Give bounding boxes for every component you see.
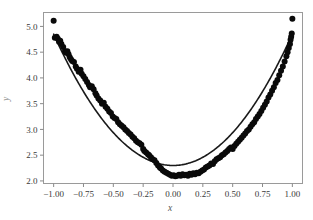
x-tick-label: −0.25 bbox=[133, 189, 154, 199]
scatter-point bbox=[289, 16, 295, 22]
x-axis-title: x bbox=[167, 203, 173, 213]
y-tick-label: 4.0 bbox=[26, 73, 38, 83]
scatter-point bbox=[51, 18, 57, 24]
scatter-point bbox=[289, 31, 295, 37]
x-tick-label: −0.75 bbox=[73, 189, 94, 199]
x-tick-label: −1.00 bbox=[43, 189, 64, 199]
x-tick-label: −0.50 bbox=[103, 189, 124, 199]
figure-background bbox=[0, 0, 313, 220]
x-tick-label: 0.50 bbox=[225, 189, 241, 199]
x-tick-label: 0.25 bbox=[195, 189, 211, 199]
scatter-point bbox=[280, 64, 286, 70]
y-tick-label: 2.5 bbox=[26, 150, 38, 160]
x-tick-label: 0.00 bbox=[165, 189, 181, 199]
scatter-point bbox=[282, 58, 288, 64]
y-tick-label: 2.0 bbox=[26, 176, 38, 186]
plot-canvas: −1.00−0.75−0.50−0.250.000.250.500.751.00… bbox=[0, 0, 313, 220]
y-tick-label: 3.0 bbox=[26, 125, 38, 135]
x-axis-tick-labels: −1.00−0.75−0.50−0.250.000.250.500.751.00 bbox=[43, 189, 300, 199]
y-tick-label: 5.0 bbox=[26, 22, 38, 32]
y-axis-title: y bbox=[1, 96, 11, 102]
x-tick-label: 1.00 bbox=[284, 189, 300, 199]
x-tick-label: 0.75 bbox=[255, 189, 271, 199]
y-tick-label: 4.5 bbox=[26, 47, 38, 57]
scatter-plot-figure: −1.00−0.75−0.50−0.250.000.250.500.751.00… bbox=[0, 0, 313, 220]
y-tick-label: 3.5 bbox=[26, 99, 38, 109]
